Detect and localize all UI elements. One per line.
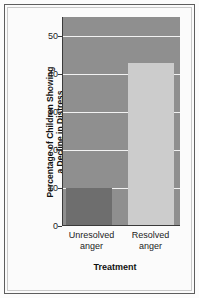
x-tick-label-line1: Resolved	[132, 230, 170, 240]
bar-resolved-anger	[128, 63, 174, 226]
gridline	[62, 36, 180, 37]
y-tick-label: 50	[38, 32, 58, 41]
y-axis-title: Percentage of Children Showing a Decline…	[18, 18, 38, 224]
x-tick-label-line1: Unresolved	[69, 230, 115, 240]
figure-canvas: Percentage of Children Showing a Decline…	[0, 0, 199, 298]
x-tick-label-line2: anger	[80, 241, 103, 251]
x-tick-label-line2: anger	[139, 241, 162, 251]
y-tick-label: 20	[38, 146, 58, 155]
x-tick-label: Unresolvedanger	[62, 230, 121, 260]
y-axis-ticks: 01020304050	[36, 17, 58, 226]
bar-unresolved-anger	[66, 188, 112, 226]
x-axis-ticks: UnresolvedangerResolvedanger	[62, 230, 180, 260]
plot-area	[62, 17, 180, 226]
x-tick-label: Resolvedanger	[121, 230, 180, 260]
y-tick-label: 40	[38, 70, 58, 79]
x-axis-title: Treatment	[40, 262, 190, 272]
y-tick-label: 30	[38, 108, 58, 117]
y-tick-label: 0	[38, 222, 58, 231]
y-tick-label: 10	[38, 184, 58, 193]
